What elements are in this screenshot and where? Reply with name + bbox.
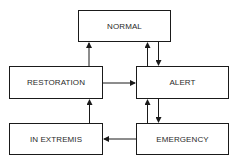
transition-arrows (0, 0, 233, 161)
